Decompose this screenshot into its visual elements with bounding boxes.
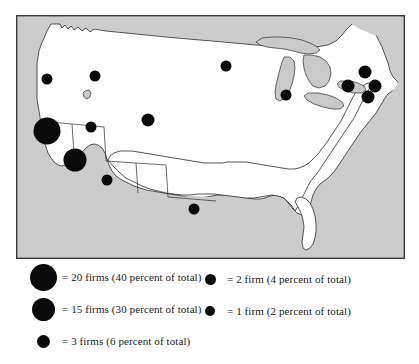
legend-15-firms-label: = 15 firms (30 percent of total)	[62, 304, 202, 315]
figure-page: = 20 firms (40 percent of total)= 15 fir…	[0, 0, 419, 364]
legend-15-firms-dot	[32, 298, 55, 321]
dot-southwest	[102, 175, 113, 186]
legend-1-firm-label: = 1 firm (2 percent of total)	[227, 306, 351, 317]
dot-great-plains	[142, 114, 155, 127]
legend-item: = 2 firm (4 percent of total)	[205, 264, 351, 294]
legend-swatch	[24, 335, 62, 348]
legend-item: = 1 firm (2 percent of total)	[205, 296, 351, 326]
dot-upper-midwest	[221, 61, 232, 72]
dot-southern-california	[64, 149, 87, 172]
dot-new-england	[369, 80, 382, 93]
dot-northern-california	[34, 118, 61, 145]
legend-3-firms-dot	[37, 335, 50, 348]
legend-swatch	[24, 264, 62, 291]
legend-swatch	[205, 306, 227, 316]
legend-swatch	[205, 274, 227, 285]
dot-midwest-plains	[281, 90, 292, 101]
dot-pacific-northwest	[42, 74, 53, 85]
legend-20-firms-dot	[30, 264, 57, 291]
legend-1-firm-dot	[205, 306, 215, 316]
legend-2-firms-label: = 2 firm (4 percent of total)	[227, 274, 351, 285]
legend-item: = 3 firms (6 percent of total)	[24, 326, 190, 356]
dot-mid-atlantic	[362, 91, 375, 104]
legend-3-firms-label: = 3 firms (6 percent of total)	[62, 336, 190, 347]
legend-item: = 20 firms (40 percent of total)	[24, 262, 202, 292]
legend-swatch	[24, 298, 62, 321]
dot-mountain-west	[86, 122, 97, 133]
map-canvas	[16, 15, 405, 259]
dot-northern-rockies	[90, 71, 101, 82]
dot-upstate-northeast	[359, 66, 372, 79]
legend-20-firms-label: = 20 firms (40 percent of total)	[62, 272, 202, 283]
dot-central-plains	[189, 204, 200, 215]
map-legend: = 20 firms (40 percent of total)= 15 fir…	[0, 262, 419, 364]
legend-2-firms-dot	[205, 274, 216, 285]
dot-great-lakes-east	[342, 80, 355, 93]
legend-item: = 15 firms (30 percent of total)	[24, 294, 202, 324]
us-distribution-map	[16, 15, 405, 259]
